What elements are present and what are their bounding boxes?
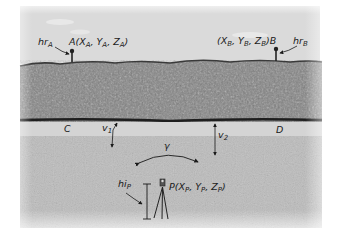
label-v2: v2 bbox=[218, 130, 228, 142]
label-hr-a: hrA bbox=[38, 37, 53, 49]
label-point-a: A(XA, YA, ZA) bbox=[69, 37, 128, 49]
survey-scene bbox=[0, 0, 341, 240]
label-v1: v1 bbox=[102, 123, 112, 135]
label-d: D bbox=[276, 125, 283, 135]
label-hr-b: hrB bbox=[293, 36, 308, 48]
label-c: C bbox=[64, 124, 71, 134]
label-point-p: P(XP, YP, ZP) bbox=[169, 182, 226, 194]
label-hi-p: hiP bbox=[118, 179, 131, 191]
label-point-b: (XB, YB, ZB)B bbox=[217, 36, 276, 48]
label-gamma: γ bbox=[164, 141, 170, 151]
